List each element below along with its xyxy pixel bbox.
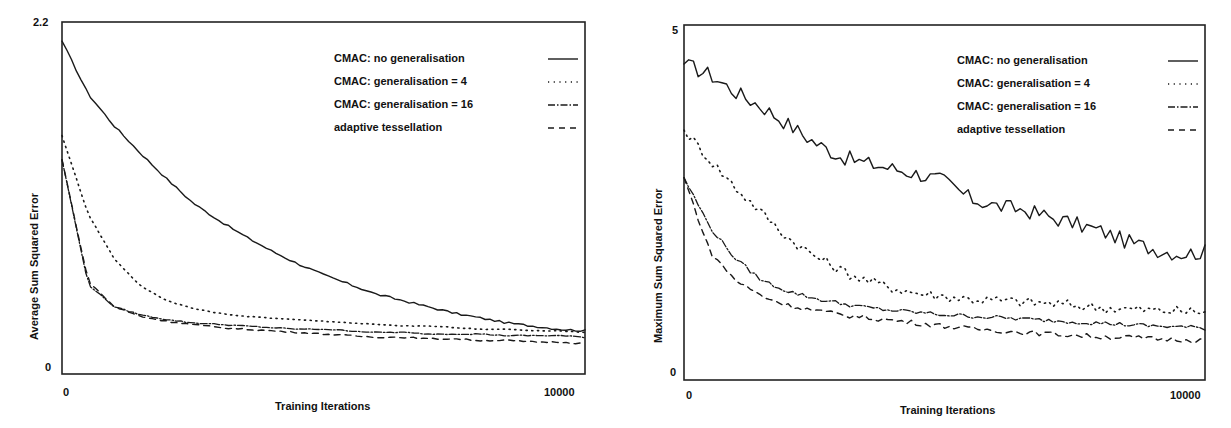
maximum-error-chart: 5 0 0 10000 Training Iterations Maximum … xyxy=(615,0,1231,428)
legend-label: CMAC: generalisation = 4 xyxy=(334,75,467,87)
y-max-tick: 5 xyxy=(672,24,678,36)
y-min-tick: 0 xyxy=(45,361,51,373)
legend-label: adaptive tessellation xyxy=(957,123,1065,135)
legend-label: CMAC: generalisation = 16 xyxy=(334,98,473,110)
maximum-error-plot-area xyxy=(615,0,1231,428)
y-max-tick: 2.2 xyxy=(33,16,48,28)
legend-label: CMAC: no generalisation xyxy=(334,52,465,64)
y-min-tick: 0 xyxy=(670,366,676,378)
x-axis-title: Training Iterations xyxy=(275,400,370,412)
plot-frame xyxy=(684,25,1205,380)
series-line-dashed xyxy=(62,160,585,344)
legend-label: adaptive tessellation xyxy=(334,121,442,133)
series-line-dashdot xyxy=(684,178,1205,331)
average-error-plot-area xyxy=(0,0,615,428)
series-line-solid xyxy=(62,41,585,331)
x-axis-title: Training Iterations xyxy=(900,404,995,416)
series-line-dashdot xyxy=(62,160,585,338)
x-max-tick: 10000 xyxy=(544,386,575,398)
x-min-tick: 0 xyxy=(63,386,69,398)
plot-frame xyxy=(62,22,585,374)
legend-label: CMAC: generalisation = 4 xyxy=(957,77,1090,89)
series-line-dashed xyxy=(684,178,1205,343)
series-line-dotted xyxy=(684,130,1205,314)
y-axis-title: Average Sum Squared Error xyxy=(28,193,40,340)
legend-label: CMAC: generalisation = 16 xyxy=(957,100,1096,112)
y-axis-title: Maximum Sum Squared Error xyxy=(652,188,664,343)
x-max-tick: 10000 xyxy=(1170,389,1201,401)
series-line-dotted xyxy=(62,136,585,333)
x-min-tick: 0 xyxy=(686,389,692,401)
series-line-solid xyxy=(684,60,1205,260)
legend-label: CMAC: no generalisation xyxy=(957,54,1088,66)
average-error-chart: 2.2 0 0 10000 Training Iterations Averag… xyxy=(0,0,615,428)
